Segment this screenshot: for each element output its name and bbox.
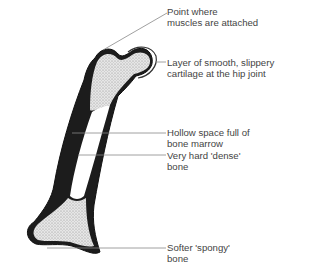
label-spongy-bone: Softer 'spongy' bone bbox=[167, 242, 230, 264]
label-line: bone bbox=[167, 253, 230, 264]
label-muscle-attachment: Point where muscles are attached bbox=[167, 6, 258, 28]
label-cartilage: Layer of smooth, slippery cartilage at t… bbox=[167, 57, 274, 79]
label-line: cartilage at the hip joint bbox=[167, 68, 274, 79]
label-marrow-cavity: Hollow space full of bone marrow bbox=[167, 127, 250, 149]
label-line: muscles are attached bbox=[167, 17, 258, 28]
spongy-bone-end bbox=[34, 198, 95, 247]
label-line: bone bbox=[167, 161, 241, 172]
femur-bone bbox=[27, 47, 156, 253]
label-line: Hollow space full of bbox=[167, 127, 250, 138]
label-line: bone marrow bbox=[167, 138, 250, 149]
label-line: Layer of smooth, slippery bbox=[167, 57, 274, 68]
label-line: Softer 'spongy' bbox=[167, 242, 230, 253]
leader-muscle-attachment bbox=[103, 13, 167, 50]
spongy-bone-head bbox=[90, 53, 150, 111]
label-line: Very hard 'dense' bbox=[167, 150, 241, 161]
label-line: Point where bbox=[167, 6, 258, 17]
label-dense-bone: Very hard 'dense' bone bbox=[167, 150, 241, 172]
